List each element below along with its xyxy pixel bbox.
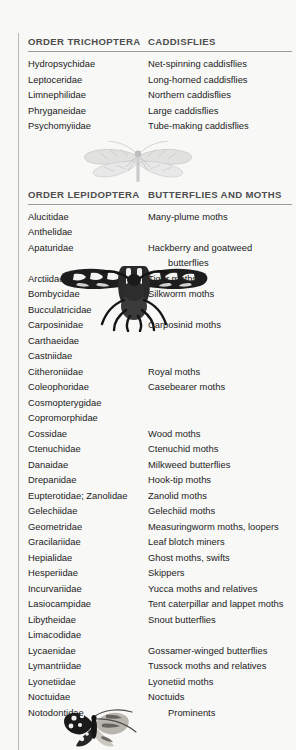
table-row: butterflies [28,255,292,271]
common-name: Measuringworm moths, loopers [148,519,292,535]
table-row: Lycaenidae Gossamer-winged butterflies [28,643,292,659]
common-name: Gelechiid moths [148,503,292,519]
table-row: Gelechiidae Gelechiid moths [28,503,292,519]
table-row: Psychomyiidae Tube-making caddisflies [28,118,292,134]
table-row: Limacodidae [28,627,292,643]
family-name: Incurvariidae [28,581,148,597]
family-name: Coleophoridae [28,379,148,395]
section-lepidoptera: ORDER LEPIDOPTERA BUTTERFLIES AND MOTHS … [28,186,292,721]
table-row: Lasiocampidae Tent caterpillar and lappe… [28,596,292,612]
table-row: Eupterotidae; Zanolidae Zanolid moths [28,488,292,504]
family-name: Phryganeidae [28,103,148,119]
family-name: Ctenuchidae [28,441,148,457]
common-name: Net-spinning caddisflies [148,56,292,72]
common-name: Noctuids [148,689,292,705]
family-name: Lasiocampidae [28,596,148,612]
family-name: Limnephilidae [28,87,148,103]
family-name: Carthaeidae [28,333,148,349]
common-name: Wood moths [148,426,292,442]
family-name: Anthelidae [28,224,148,240]
common-name: Royal moths [148,364,292,380]
family-name: Hesperiidae [28,565,148,581]
table-row: Coleophoridae Casebearer moths [28,379,292,395]
family-name: Libytheidae [28,612,148,628]
taxonomy-table: ORDER TRICHOPTERA CADDISFLIES Hydropsych… [28,0,292,720]
family-name: Notodontidae [28,705,148,721]
common-name: Ghost moths, swifts [148,550,292,566]
table-row: Carthaeidae [28,333,292,349]
table-row: Geometridae Measuringworm moths, loopers [28,519,292,535]
table-row: Limnephilidae Northern caddisflies [28,87,292,103]
family-name: Gelechiidae [28,503,148,519]
common-name: Northern caddisflies [148,87,292,103]
common-name: Long-horned caddisflies [148,72,292,88]
table-row: Arctiidae Tiger moths [28,271,292,287]
family-name: Hepialidae [28,550,148,566]
family-name: Castniidae [28,348,148,364]
illustration-spacer-caddisfly [28,134,292,186]
table-row: Hesperiidae Skippers [28,565,292,581]
family-name: Geometridae [28,519,148,535]
family-name: Leptoceridae [28,72,148,88]
common-name: Prominents [148,705,292,721]
table-row: Lyonetiidae Lyonetiid moths [28,674,292,690]
family-name: Limacodidae [28,627,148,643]
family-name: Drepanidae [28,472,148,488]
table-row: Notodontidae Prominents [28,705,292,721]
common-name: Tube-making caddisflies [148,118,292,134]
family-name: Psychomyiidae [28,118,148,134]
table-row: Hydropsychidae Net-spinning caddisflies [28,56,292,72]
table-row: Citheroniidae Royal moths [28,364,292,380]
order-heading: ORDER LEPIDOPTERA [28,188,148,201]
family-name: Eupterotidae; Zanolidae [28,488,148,504]
family-name: Copromorphidae [28,410,148,426]
family-name: Carposinidae [28,317,148,333]
family-name: Gracilariidae [28,534,148,550]
common-name: Carposinid moths [148,317,292,333]
table-row: Cossidae Wood moths [28,426,292,442]
common-name-heading: BUTTERFLIES AND MOTHS [148,188,292,201]
table-row: Bucculatricidae [28,302,292,318]
page-canvas: ORDER TRICHOPTERA CADDISFLIES Hydropsych… [0,0,296,750]
table-row: Gracilariidae Leaf blotch miners [28,534,292,550]
table-row: Anthelidae [28,224,292,240]
section-trichoptera: ORDER TRICHOPTERA CADDISFLIES Hydropsych… [28,0,292,134]
section-header-lepidoptera: ORDER LEPIDOPTERA BUTTERFLIES AND MOTHS [28,186,292,205]
common-name: Milkweed butterflies [148,457,292,473]
family-name: Bombycidae [28,286,148,302]
family-name: Danaidae [28,457,148,473]
table-row: Carposinidae Carposinid moths [28,317,292,333]
table-row: Bombycidae Silkworm moths [28,286,292,302]
table-row: Copromorphidae [28,410,292,426]
table-row: Incurvariidae Yucca moths and relatives [28,581,292,597]
table-row: Apaturidae Hackberry and goatweed [28,240,292,256]
family-name: Hydropsychidae [28,56,148,72]
common-name: Tent caterpillar and lappet moths [148,596,292,612]
table-row: Leptoceridae Long-horned caddisflies [28,72,292,88]
common-name: Snout butterflies [148,612,292,628]
family-name: Citheroniidae [28,364,148,380]
common-name: Large caddisflies [148,103,292,119]
table-row: Castniidae [28,348,292,364]
family-name: Lycaenidae [28,643,148,659]
order-heading: ORDER TRICHOPTERA [28,35,148,48]
table-row: Phryganeidae Large caddisflies [28,103,292,119]
common-name: Casebearer moths [148,379,292,395]
common-name: Hackberry and goatweed [148,240,292,256]
common-name: Tiger moths [148,271,292,287]
common-name: butterflies [148,255,292,271]
table-row: Cosmopterygidae [28,395,292,411]
table-row: Alucitidae Many-plume moths [28,209,292,225]
family-name: Lyonetiidae [28,674,148,690]
common-name: Lyonetiid moths [148,674,292,690]
family-name: Bucculatricidae [28,302,148,318]
family-name: Cossidae [28,426,148,442]
table-row: Hepialidae Ghost moths, swifts [28,550,292,566]
family-name: Lymantriidae [28,658,148,674]
section-header-trichoptera: ORDER TRICHOPTERA CADDISFLIES [28,33,292,52]
rows-trichoptera: Hydropsychidae Net-spinning caddisflies … [28,52,292,134]
common-name: Hook-tip moths [148,472,292,488]
table-row: Danaidae Milkweed butterflies [28,457,292,473]
common-name: Many-plume moths [148,209,292,225]
common-name: Zanolid moths [148,488,292,504]
